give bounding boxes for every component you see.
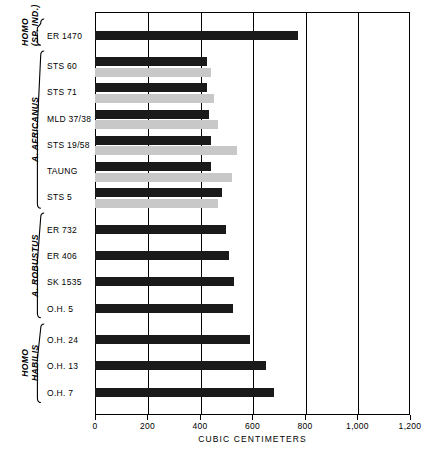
bar-light-sts-19-58 xyxy=(95,146,237,155)
bar-dark-o-h-13 xyxy=(95,361,266,370)
bar-dark-o-h-7 xyxy=(95,388,274,397)
x-tick-label-1000: 1,000 xyxy=(346,421,369,431)
bar-row xyxy=(95,54,410,80)
bar-row xyxy=(95,353,410,379)
bar-row xyxy=(95,327,410,353)
x-tick-400 xyxy=(200,415,201,420)
x-tick-600 xyxy=(252,415,253,420)
bar-dark-er-732 xyxy=(95,225,226,234)
group-name-line: HOMO xyxy=(20,323,30,404)
x-tick-200 xyxy=(147,415,148,420)
x-tick-label-800: 800 xyxy=(297,421,312,431)
bar-dark-sts-19-58 xyxy=(95,136,211,145)
specimen-label-er-732: ER 732 xyxy=(47,225,77,235)
bar-light-taung xyxy=(95,173,232,182)
bar-dark-o-h-24 xyxy=(95,335,250,344)
bar-light-sts-5 xyxy=(95,199,218,208)
specimen-label-taung: TAUNG xyxy=(47,166,78,176)
bar-row xyxy=(95,159,410,185)
x-tick-1200 xyxy=(410,415,411,420)
x-tick-label-1200: 1,200 xyxy=(399,421,422,431)
specimen-label-mld-37-38: MLD 37/38 xyxy=(47,114,91,124)
group-name-homo-sp-ind-: HOMO(SP. IND.) xyxy=(20,18,40,46)
bar-dark-er-1470 xyxy=(95,31,298,40)
specimen-label-o-h-5: O.H. 5 xyxy=(47,304,73,314)
x-axis-tick-labels: 02004006008001,0001,200 xyxy=(0,421,437,435)
bar-rows-container xyxy=(95,12,410,415)
bar-row xyxy=(95,216,410,242)
bar-dark-sk-1535 xyxy=(95,277,234,286)
x-tick-label-600: 600 xyxy=(245,421,260,431)
specimen-label-sts-60: STS 60 xyxy=(47,61,77,71)
brain-size-bar-chart: ER 1470STS 60STS 71MLD 37/38STS 19/58TAU… xyxy=(0,0,437,450)
specimen-label-sts-71: STS 71 xyxy=(47,87,77,97)
specimen-label-sts-5: STS 5 xyxy=(47,192,72,202)
bar-row xyxy=(95,22,410,48)
bar-dark-sts-71 xyxy=(95,83,207,92)
specimen-label-o-h-7: O.H. 7 xyxy=(47,388,73,398)
bar-dark-o-h-5 xyxy=(95,304,233,313)
group-name-homo-habilis: HOMOHABILIS xyxy=(20,323,40,404)
bar-light-sts-71 xyxy=(95,94,214,103)
bar-row xyxy=(95,295,410,321)
specimen-label-o-h-24: O.H. 24 xyxy=(47,335,78,345)
bar-dark-mld-37-38 xyxy=(95,110,209,119)
x-axis-title: CUBIC CENTIMETERS xyxy=(95,434,410,444)
group-name-line: A. ROBUSTUS xyxy=(30,212,40,319)
bar-row xyxy=(95,106,410,132)
specimen-label-er-406: ER 406 xyxy=(47,251,77,261)
x-tick-0 xyxy=(95,415,96,420)
x-tick-label-200: 200 xyxy=(140,421,155,431)
group-name-a-robustus: A. ROBUSTUS xyxy=(30,212,40,319)
bar-row xyxy=(95,379,410,405)
specimen-label-o-h-13: O.H. 13 xyxy=(47,361,78,371)
x-tick-label-0: 0 xyxy=(92,421,97,431)
x-tick-label-400: 400 xyxy=(192,421,207,431)
group-name-line: HOMO xyxy=(20,18,30,46)
bar-dark-taung xyxy=(95,162,211,171)
group-name-line: A. AFRICANUS xyxy=(30,50,40,209)
bar-row xyxy=(95,80,410,106)
group-name-a-africanus: A. AFRICANUS xyxy=(30,50,40,209)
bar-row xyxy=(95,269,410,295)
x-tick-800 xyxy=(305,415,306,420)
bar-row xyxy=(95,185,410,211)
bar-dark-er-406 xyxy=(95,251,229,260)
bar-light-sts-60 xyxy=(95,68,211,77)
bar-row xyxy=(95,243,410,269)
bar-light-mld-37-38 xyxy=(95,120,218,129)
bar-dark-sts-60 xyxy=(95,57,207,66)
group-name-line: HABILIS xyxy=(30,323,40,404)
x-tick-1000 xyxy=(357,415,358,420)
specimen-label-sts-19-58: STS 19/58 xyxy=(47,140,90,150)
specimen-label-er-1470: ER 1470 xyxy=(47,31,82,41)
bar-row xyxy=(95,132,410,158)
bar-dark-sts-5 xyxy=(95,188,222,197)
specimen-label-sk-1535: SK 1535 xyxy=(47,277,82,287)
group-name-line: (SP. IND.) xyxy=(30,18,40,46)
